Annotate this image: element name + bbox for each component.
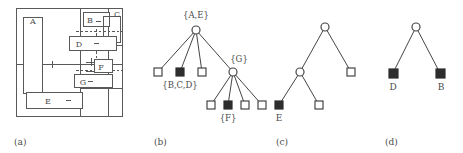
node-leaf-filled-b xyxy=(436,69,445,78)
label-g: G xyxy=(80,78,86,87)
panel-c: E (c) xyxy=(268,0,366,153)
node-leaf-open-4 xyxy=(241,101,249,109)
caption-a: (a) xyxy=(14,137,26,147)
panel-a: A B C D E F G (a) xyxy=(0,0,140,153)
label-f: F xyxy=(98,63,104,72)
label-d: D xyxy=(76,40,82,49)
label-b: B xyxy=(87,16,93,25)
edge-mid-leafE xyxy=(279,72,300,105)
panel-d: D B (d) xyxy=(366,0,463,153)
panel-b-edges xyxy=(158,30,262,105)
box-a xyxy=(24,18,43,94)
label-f-set: {F} xyxy=(220,113,237,123)
edge-root-leaf2 xyxy=(180,30,196,72)
panel-c-labels: E xyxy=(276,113,283,123)
panel-b-drawing: {A,E} {G} {B,C,D} {F} xyxy=(140,0,268,153)
node-leaf-open-bottom xyxy=(315,101,323,109)
label-bcd-set: {B,C,D} xyxy=(162,80,197,90)
edge-g-leaf3 xyxy=(233,72,245,105)
caption-c: (c) xyxy=(276,137,288,147)
node-root-circle xyxy=(321,23,329,31)
panel-b-labels: {A,E} {G} {B,C,D} {F} xyxy=(162,10,248,123)
label-g-set: {G} xyxy=(230,54,248,64)
edge-g-leaf1 xyxy=(211,72,233,105)
figure-container: A B C D E F G (a) xyxy=(0,0,463,153)
edge-root-right xyxy=(325,27,351,72)
node-leaf-filled-d xyxy=(389,69,398,78)
label-root-set: {A,E} xyxy=(183,10,209,20)
panel-b: {A,E} {G} {B,C,D} {F} (b) xyxy=(140,0,268,153)
edge-mid-leaf xyxy=(300,72,319,105)
panel-d-drawing: D B xyxy=(366,0,463,153)
edge-root-d xyxy=(393,27,416,73)
node-leaf-open-3 xyxy=(207,101,215,109)
label-e: E xyxy=(276,113,283,123)
caption-d: (d) xyxy=(385,137,398,147)
edge-g-leaf2 xyxy=(228,72,233,105)
panel-d-edges xyxy=(393,27,440,73)
node-root-circle xyxy=(192,26,200,34)
label-b: B xyxy=(438,82,445,92)
edge-root-b xyxy=(416,27,440,73)
label-e: E xyxy=(45,97,51,106)
node-leaf-filled-bcd xyxy=(176,68,184,76)
panel-c-edges xyxy=(279,27,351,105)
edge-root-leaf1 xyxy=(158,30,196,72)
node-g-circle xyxy=(229,68,237,76)
node-leaf-filled-e xyxy=(275,101,283,109)
edge-g-leaf4 xyxy=(233,72,262,105)
node-leaf-open-2 xyxy=(198,68,206,76)
panel-c-drawing: E xyxy=(268,0,366,153)
node-leaf-open-5 xyxy=(258,101,266,109)
label-a: A xyxy=(29,17,36,26)
caption-b: (b) xyxy=(154,137,167,147)
node-leaf-open-1 xyxy=(154,68,162,76)
node-mid-circle xyxy=(296,68,304,76)
node-root-circle xyxy=(412,23,420,31)
node-leaf-filled-f xyxy=(224,101,232,109)
panel-d-labels: D B xyxy=(389,82,444,92)
panel-a-drawing: A B C D E F G xyxy=(0,0,140,153)
box-e xyxy=(27,93,83,109)
node-leaf-open-right xyxy=(347,68,355,76)
label-d: D xyxy=(389,82,396,92)
label-c: C xyxy=(114,10,120,19)
edge-root-mid xyxy=(300,27,325,72)
